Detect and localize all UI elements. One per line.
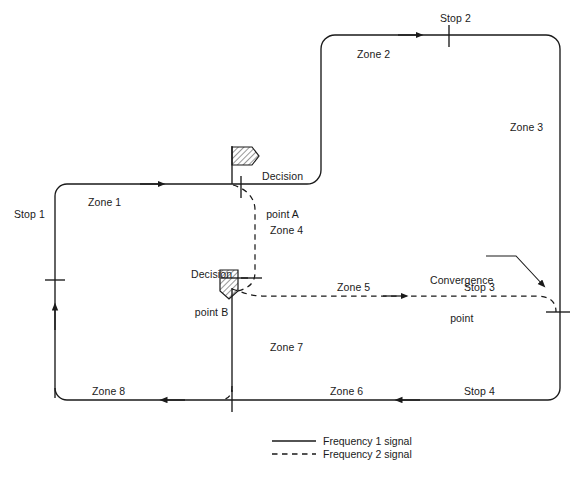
zone-label-zone7: Zone 7 xyxy=(270,341,303,354)
decision-point-b-label-line2: point B xyxy=(191,306,232,319)
convergence-point-label-line1: Convergence xyxy=(430,274,494,287)
convergence-point-label: Convergence point xyxy=(430,249,494,349)
convergence-point-label-line2: point xyxy=(430,312,494,325)
stop-label-stop2: Stop 2 xyxy=(440,12,471,25)
zone-label-zone2: Zone 2 xyxy=(357,48,390,61)
legend-label-frequency-1: Frequency 1 signal xyxy=(323,435,412,448)
zone-label-zone5: Zone 5 xyxy=(337,281,370,294)
zone-label-zone8: Zone 8 xyxy=(92,385,125,398)
decision-point-b-label: Decision point B xyxy=(191,243,232,343)
decision-point-a-label: Decision point A xyxy=(262,145,303,245)
stop-label-stop1: Stop 1 xyxy=(14,208,45,221)
decision-point-b-label-line1: Decision xyxy=(191,268,232,281)
zone-label-zone1: Zone 1 xyxy=(88,196,121,209)
decision-point-a-label-line2: point A xyxy=(262,208,303,221)
zone-label-zone3: Zone 3 xyxy=(510,121,543,134)
legend-label-frequency-2: Frequency 2 signal xyxy=(323,448,412,461)
track-zone5-dashed-path xyxy=(232,289,556,312)
zone7-dashed-join-path xyxy=(222,386,232,400)
decision-point-a-flag-icon xyxy=(232,147,259,165)
zone-label-zone6: Zone 6 xyxy=(330,385,363,398)
track-diagram: Zone 1 Zone 2 Zone 3 Zone 4 Zone 5 Zone … xyxy=(0,0,575,477)
stop-label-stop4: Stop 4 xyxy=(464,385,495,398)
decision-point-a-label-line1: Decision xyxy=(262,170,303,183)
